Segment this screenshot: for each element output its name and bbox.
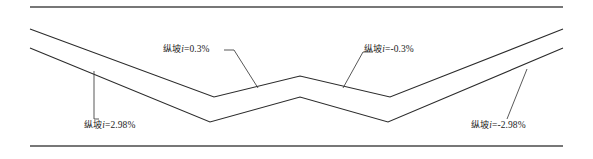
grade-label-right: 纵坡i=-2.98% bbox=[471, 121, 526, 131]
grade-label-mid-left: 纵坡i=0.3% bbox=[163, 45, 210, 55]
leader-right-grade bbox=[507, 69, 527, 119]
grade-label-mid-right-prefix: 纵坡 bbox=[364, 44, 382, 54]
grade-label-right-prefix: 纵坡 bbox=[471, 120, 489, 130]
road-profile-figure: 纵坡i=2.98% 纵坡i=0.3% 纵坡i=-0.3% 纵坡i=-2.98% bbox=[0, 0, 593, 159]
leader-mid-left bbox=[224, 50, 258, 88]
grade-label-left-value: =2.98% bbox=[105, 120, 136, 130]
grade-label-left: 纵坡i=2.98% bbox=[84, 121, 135, 131]
leader-left-grade bbox=[94, 71, 99, 119]
upper-profile-line bbox=[30, 29, 563, 97]
profile-drawing bbox=[0, 0, 593, 159]
leader-mid-right bbox=[343, 52, 373, 88]
grade-label-mid-right: 纵坡i=-0.3% bbox=[364, 45, 414, 55]
grade-label-mid-right-value: =-0.3% bbox=[385, 44, 414, 54]
grade-label-mid-left-prefix: 纵坡 bbox=[163, 44, 181, 54]
grade-label-left-prefix: 纵坡 bbox=[84, 120, 102, 130]
grade-label-mid-left-value: =0.3% bbox=[184, 44, 210, 54]
grade-label-right-value: =-2.98% bbox=[492, 120, 526, 130]
